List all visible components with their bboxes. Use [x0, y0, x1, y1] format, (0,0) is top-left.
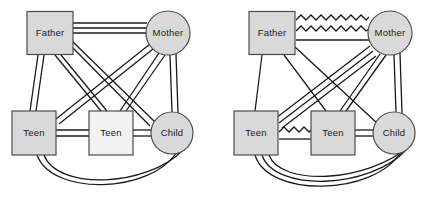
node-teen-left[interactable]: Teen — [234, 111, 278, 155]
edge-father-mother — [73, 23, 150, 33]
right-genogram-panel: Father Mother Teen Teen Child — [222, 0, 444, 198]
node-teen-right[interactable]: Teen — [311, 111, 355, 155]
node-label-teen-left: Teen — [245, 127, 266, 138]
node-label-child: Child — [383, 127, 406, 138]
edge-father-teen2 — [55, 55, 107, 111]
node-child[interactable]: Child — [373, 112, 415, 154]
node-label-father: Father — [36, 27, 65, 38]
genogram-figure: Father Mother Teen Teen Child — [0, 0, 445, 198]
node-label-mother: Mother — [375, 27, 406, 38]
node-label-teen-right: Teen — [100, 127, 121, 138]
edge-father-mother-conflict — [296, 15, 372, 40]
edge-teen1-teen2-conflict — [279, 127, 311, 139]
node-label-child: Child — [161, 127, 184, 138]
node-father[interactable]: Father — [27, 12, 73, 55]
node-teen-right[interactable]: Teen — [89, 111, 133, 155]
node-father[interactable]: Father — [249, 12, 295, 55]
node-mother[interactable]: Mother — [368, 11, 412, 55]
node-label-teen-left: Teen — [23, 127, 44, 138]
edge-mother-child — [394, 53, 402, 113]
left-genogram-panel: Father Mother Teen Teen Child — [0, 0, 222, 198]
node-label-teen-right: Teen — [322, 127, 343, 138]
edge-mother-child — [170, 54, 178, 113]
node-label-father: Father — [258, 27, 287, 38]
node-teen-left[interactable]: Teen — [12, 111, 56, 155]
edge-father-teen1 — [255, 55, 262, 111]
edge-teen1-teen2 — [56, 130, 89, 136]
edge-father-teen1 — [30, 55, 44, 111]
right-nodes: Father Mother Teen Teen Child — [234, 11, 415, 155]
node-child[interactable]: Child — [151, 112, 193, 154]
edge-teen2-child — [133, 130, 153, 136]
edge-mother-teen2 — [340, 54, 386, 111]
node-label-mother: Mother — [153, 27, 184, 38]
node-mother[interactable]: Mother — [146, 11, 190, 55]
